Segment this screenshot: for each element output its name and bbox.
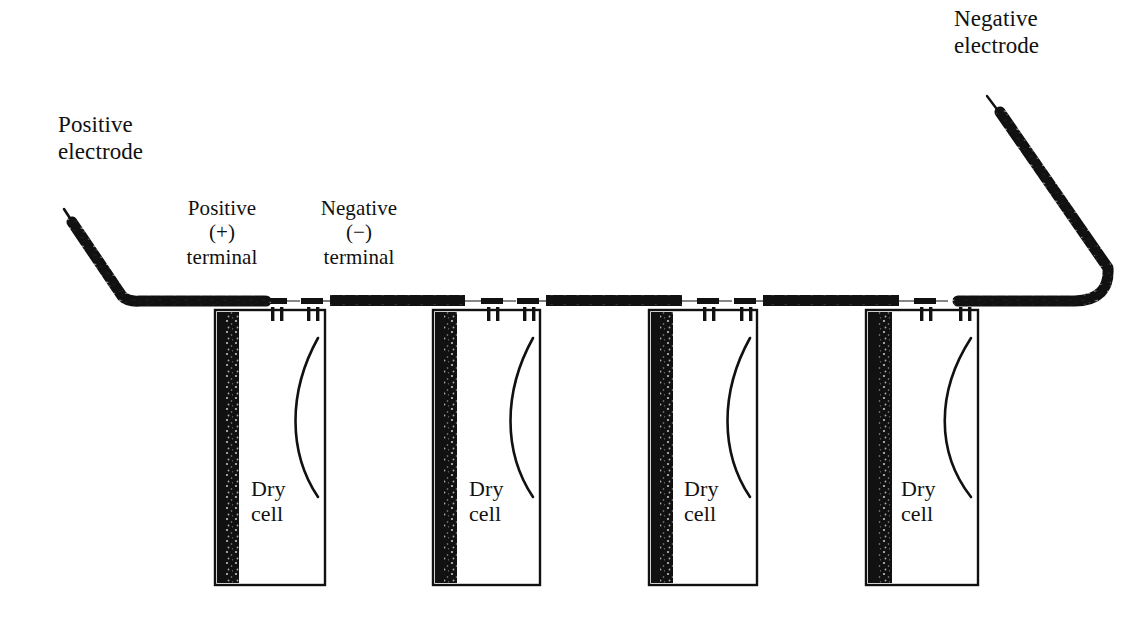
- cell-left-band-solid: [217, 312, 226, 583]
- wire-core: [958, 112, 1108, 301]
- negative-terminal-label: Negative (−) terminal: [296, 196, 422, 269]
- dry-cell-4-label: Dry cell: [901, 477, 936, 526]
- terminal-post: [920, 307, 923, 321]
- negative-electrode-label: Negative electrode: [954, 6, 1039, 59]
- wire-link-cell1-cell2: [330, 295, 465, 306]
- dry-cell-3-label: Dry cell: [684, 477, 719, 526]
- terminal-cap: [517, 298, 539, 304]
- terminal-post: [959, 307, 962, 321]
- cell-left-band-solid: [868, 312, 878, 583]
- wire-link-cell3-cell4: [763, 295, 899, 306]
- wire-link-cell2-cell3: [546, 295, 682, 306]
- dry-cell-3: [649, 298, 757, 585]
- terminal-post: [749, 307, 752, 321]
- terminal-post: [703, 307, 706, 321]
- terminal-post: [523, 307, 526, 321]
- terminal-post: [271, 307, 274, 321]
- wire-core: [763, 297, 899, 304]
- terminal-cap: [301, 298, 323, 304]
- terminal-post: [929, 307, 932, 321]
- dry-cell-2-label: Dry cell: [469, 477, 504, 526]
- dry-cell-2: [433, 298, 540, 585]
- terminal-post: [968, 307, 971, 321]
- terminal-post: [740, 307, 743, 321]
- wire-core: [330, 297, 465, 304]
- positive-electrode-label: Positive electrode: [58, 112, 143, 165]
- dry-cell-1-label: Dry cell: [251, 477, 286, 526]
- dry-cell-series-diagram: Positive electrode Negative electrode Po…: [0, 0, 1139, 620]
- positive-terminal-label: Positive (+) terminal: [160, 196, 284, 269]
- terminal-post: [280, 307, 283, 321]
- terminal-post: [307, 307, 310, 321]
- cell-left-band-solid: [435, 312, 444, 583]
- wire-body: [958, 112, 1108, 301]
- terminal-post: [712, 307, 715, 321]
- wire-core: [546, 297, 682, 304]
- terminal-post: [487, 307, 490, 321]
- dry-cell-1: [215, 298, 325, 585]
- terminal-post: [532, 307, 535, 321]
- terminal-post: [316, 307, 319, 321]
- cell-left-band-solid: [651, 312, 660, 583]
- terminal-cap: [734, 298, 756, 304]
- negative-electrode-lead: [958, 96, 1108, 301]
- terminal-post: [496, 307, 499, 321]
- electrode-tip: [987, 96, 1002, 116]
- diagram-canvas: [0, 0, 1139, 620]
- dry-cell-4: [866, 298, 978, 585]
